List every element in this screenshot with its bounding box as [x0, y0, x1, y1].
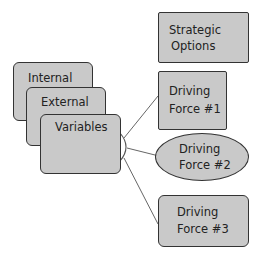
external-label: External — [41, 94, 89, 110]
variables-box: Variables — [40, 114, 121, 174]
driving-force-3-line2: Force #3 — [177, 221, 229, 237]
driving-force-1-line2: Force #1 — [169, 101, 221, 117]
edge-variables-to-force-1 — [124, 96, 158, 138]
driving-force-2-line2: Force #2 — [179, 157, 231, 173]
edge-variables-to-force-3 — [124, 158, 158, 224]
driving-force-1-line1: Driving — [169, 83, 210, 99]
edge-variables-to-force-2 — [127, 148, 155, 155]
driving-force-2-line1: Driving — [179, 141, 220, 157]
driving-force-3-line1: Driving — [177, 204, 218, 220]
strategic-options-line2: Options — [171, 38, 215, 54]
internal-label: Internal — [28, 70, 72, 86]
driving-force-2-ellipse: Driving Force #2 — [155, 133, 249, 181]
strategic-options-line1: Strategic — [169, 22, 221, 38]
driving-force-3-box: Driving Force #3 — [158, 195, 249, 247]
strategic-options-box: Strategic Options — [158, 12, 249, 63]
variables-label: Variables — [55, 119, 108, 135]
diagram-canvas: Internal External Variables Strategic Op… — [0, 0, 261, 258]
driving-force-1-box: Driving Force #1 — [158, 71, 227, 130]
